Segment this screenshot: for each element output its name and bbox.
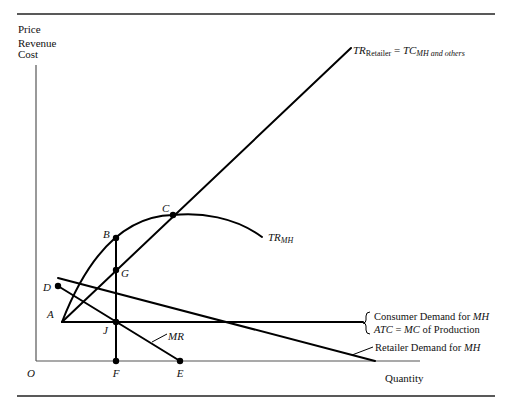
point-c-dot [170,212,176,218]
point-e-dot [177,358,183,364]
brace-icon [363,312,370,334]
y-label-cost: Cost [18,48,38,60]
tr-retailer-label: TRRetailer = TCMH and others [353,44,465,58]
point-e-label: E [176,367,184,379]
tr-retailer-line [62,48,351,322]
retailer-demand-label: Retailer Demand for MH [375,342,482,353]
point-g-label: G [121,267,129,279]
y-label-price: Price [18,23,41,35]
y-axis-label: Price Revenue Cost [18,23,57,60]
point-d-label: D [42,281,51,293]
origin-label: O [27,367,35,379]
mr-leader [152,334,167,342]
mr-line [58,286,180,361]
point-f-dot [113,358,119,364]
economics-diagram: Price Revenue Cost O Quantity TRRetailer… [0,0,519,408]
retailer-demand-line [58,278,375,361]
retailer-demand-leader [352,347,373,355]
point-j-dot [113,319,119,325]
point-j-label: J [103,324,109,336]
tr-mh-label: TRMH [268,231,295,245]
mr-label: MR [167,330,184,342]
atc-mc-label: ATC = MC of Production [373,324,481,335]
point-g-dot [113,267,119,273]
point-c-label: C [162,202,170,214]
point-b-dot [113,235,119,241]
consumer-demand-label: Consumer Demand for MH [374,311,491,322]
point-a-label: A [46,308,54,320]
x-axis-label: Quantity [385,372,424,384]
point-d-dot [55,283,61,289]
point-f-label: F [112,367,120,379]
point-b-label: B [103,228,110,240]
